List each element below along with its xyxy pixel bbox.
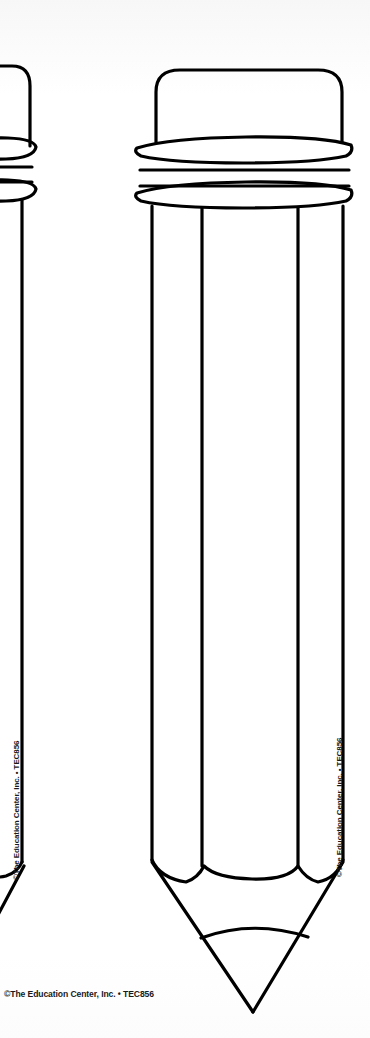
ferrule-ring-upper-main <box>136 137 352 163</box>
credit-bottom-left: ©The Education Center, Inc. • TEC856 <box>4 989 154 999</box>
credit-left-pencil-vertical: ©The Education Center, Inc. • TEC856 <box>12 741 21 880</box>
eraser-left <box>0 66 30 146</box>
graphite-tip-arc-main <box>201 928 308 938</box>
credit-right-pencil-vertical: ©The Education Center, Inc. • TEC856 <box>335 738 344 877</box>
pencil-full-center <box>136 70 352 1012</box>
pencil-artwork <box>0 0 370 1038</box>
pencil-artwork-svg <box>0 0 370 1038</box>
ferrule-ring-upper-left <box>0 138 36 159</box>
page-canvas: ©The Education Center, Inc. • TEC856 ©Th… <box>0 0 370 1038</box>
wood-point-cone-right-main <box>253 862 343 1012</box>
wood-point-scallop-main <box>152 860 343 882</box>
eraser-main <box>156 70 342 142</box>
